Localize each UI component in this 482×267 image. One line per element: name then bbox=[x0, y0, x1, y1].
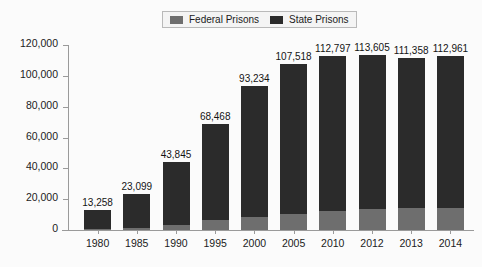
x-axis-tick-mark bbox=[333, 230, 334, 234]
bar-group[interactable]: 113,605 bbox=[359, 55, 386, 230]
legend-label-state-prisons: State Prisons bbox=[289, 15, 348, 25]
x-axis-tick-mark bbox=[137, 230, 138, 234]
x-axis-tick-label: 2012 bbox=[352, 237, 391, 249]
bar-segment-state-prisons[interactable] bbox=[319, 56, 346, 211]
plot-area: 120,000100,00080,00060,00040,00020,0000 … bbox=[68, 45, 470, 231]
legend-swatch-state-prisons bbox=[270, 16, 283, 24]
bar-value-label: 43,845 bbox=[161, 149, 192, 160]
bar-segment-federal-prisons[interactable] bbox=[437, 208, 464, 230]
x-axis-tick-mark bbox=[254, 230, 255, 234]
y-axis-tick-mark bbox=[63, 199, 68, 200]
y-axis-line bbox=[68, 45, 69, 231]
y-axis-tick-label: 40,000 bbox=[26, 161, 58, 172]
legend-swatch-federal-prisons bbox=[170, 16, 183, 24]
x-axis-tick-label: 1995 bbox=[196, 237, 235, 249]
bar-stack bbox=[280, 64, 307, 230]
bar-segment-state-prisons[interactable] bbox=[123, 194, 150, 228]
bar-value-label: 68,468 bbox=[200, 111, 231, 122]
bar-segment-federal-prisons[interactable] bbox=[202, 220, 229, 230]
bar-segment-state-prisons[interactable] bbox=[437, 56, 464, 208]
x-axis-tick-label: 2005 bbox=[274, 237, 313, 249]
bar-value-label: 113,605 bbox=[354, 42, 389, 53]
y-axis-tick-mark bbox=[63, 230, 68, 231]
x-axis-tick-label: 1980 bbox=[78, 237, 117, 249]
bar-group[interactable]: 107,518 bbox=[280, 64, 307, 230]
bar-group[interactable]: 93,234 bbox=[241, 86, 268, 230]
x-axis-tick-mark bbox=[98, 230, 99, 234]
legend-item-federal-prisons: Federal Prisons bbox=[170, 15, 259, 25]
bar-value-label: 112,797 bbox=[315, 43, 350, 54]
y-axis-tick-label: 80,000 bbox=[26, 100, 58, 111]
bar-stack bbox=[202, 124, 229, 230]
bar-group[interactable]: 112,797 bbox=[319, 56, 346, 230]
bar-segment-state-prisons[interactable] bbox=[280, 64, 307, 214]
y-axis-tick-mark bbox=[63, 45, 68, 46]
bar-segment-federal-prisons[interactable] bbox=[359, 209, 386, 230]
bar-group[interactable]: 112,961 bbox=[437, 56, 464, 230]
y-axis-tick-label: 120,000 bbox=[20, 38, 58, 49]
x-axis-tick-label: 2014 bbox=[431, 237, 470, 249]
bar-value-label: 93,234 bbox=[239, 73, 270, 84]
bar-stack bbox=[241, 86, 268, 230]
bar-stack bbox=[437, 56, 464, 230]
x-axis-tick-mark bbox=[215, 230, 216, 234]
legend-label-federal-prisons: Federal Prisons bbox=[189, 15, 259, 25]
bar-segment-federal-prisons[interactable] bbox=[398, 208, 425, 230]
bar-stack bbox=[84, 210, 111, 230]
y-axis-tick-label: 0 bbox=[52, 223, 58, 234]
y-axis-tick-label: 60,000 bbox=[26, 131, 58, 142]
bar-segment-state-prisons[interactable] bbox=[163, 162, 190, 224]
bar-group[interactable]: 13,258 bbox=[84, 210, 111, 230]
bar-group[interactable]: 23,099 bbox=[123, 194, 150, 230]
bar-group[interactable]: 68,468 bbox=[202, 124, 229, 230]
chart-legend: Federal Prisons State Prisons bbox=[162, 11, 357, 28]
bar-stack bbox=[398, 58, 425, 230]
bar-segment-federal-prisons[interactable] bbox=[319, 211, 346, 230]
bar-segment-state-prisons[interactable] bbox=[84, 210, 111, 230]
y-axis-tick-mark bbox=[63, 107, 68, 108]
x-axis-tick-mark bbox=[294, 230, 295, 234]
x-axis-tick-label: 2000 bbox=[235, 237, 274, 249]
x-axis-tick-label: 2010 bbox=[313, 237, 352, 249]
y-axis-tick-label: 20,000 bbox=[26, 192, 58, 203]
bar-segment-federal-prisons[interactable] bbox=[241, 217, 268, 230]
bar-value-label: 23,099 bbox=[122, 181, 153, 192]
legend-item-state-prisons: State Prisons bbox=[270, 15, 348, 25]
bar-stack bbox=[319, 56, 346, 230]
bar-segment-state-prisons[interactable] bbox=[202, 124, 229, 220]
bar-stack bbox=[123, 194, 150, 230]
x-axis-tick-label: 1990 bbox=[156, 237, 195, 249]
x-axis-tick-label: 2013 bbox=[392, 237, 431, 249]
y-axis-tick-mark bbox=[63, 138, 68, 139]
x-axis-tick-mark bbox=[176, 230, 177, 234]
x-axis-tick-label: 1985 bbox=[117, 237, 156, 249]
bar-value-label: 111,358 bbox=[394, 45, 429, 56]
bar-chart: Federal Prisons State Prisons 120,000100… bbox=[0, 0, 482, 267]
bar-segment-state-prisons[interactable] bbox=[398, 58, 425, 208]
x-axis-line bbox=[62, 230, 474, 231]
x-axis-tick-mark bbox=[372, 230, 373, 234]
bar-segment-state-prisons[interactable] bbox=[359, 55, 386, 209]
x-axis-tick-mark bbox=[450, 230, 451, 234]
y-axis-tick-label: 100,000 bbox=[20, 69, 58, 80]
bar-segment-federal-prisons[interactable] bbox=[280, 214, 307, 230]
bar-group[interactable]: 111,358 bbox=[398, 58, 425, 230]
x-axis-tick-mark bbox=[411, 230, 412, 234]
bar-stack bbox=[163, 162, 190, 230]
bar-value-label: 107,518 bbox=[276, 51, 312, 62]
y-axis-tick-mark bbox=[63, 76, 68, 77]
y-axis-tick-mark bbox=[63, 168, 68, 169]
bar-value-label: 112,961 bbox=[433, 43, 468, 54]
bar-group[interactable]: 43,845 bbox=[163, 162, 190, 230]
bar-segment-state-prisons[interactable] bbox=[241, 86, 268, 217]
bar-stack bbox=[359, 55, 386, 230]
bar-value-label: 13,258 bbox=[82, 197, 113, 208]
